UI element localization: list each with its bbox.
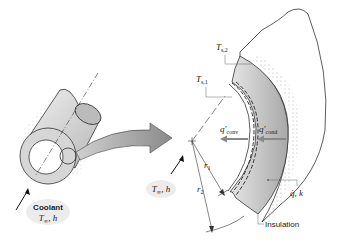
diagram-canvas: Coolant T∞, h q′conv q′cond Ts,2 Ts,1 T∞… [0,0,343,246]
coolant-label: Coolant [33,203,63,212]
insulation-label: Insulation [265,220,299,229]
r1-label: r1 [204,160,211,171]
r2-label: r2 [197,184,204,195]
ts1-leader [206,87,232,97]
r2-dimension-line [192,141,212,230]
ts1-label: Ts,1 [196,74,208,85]
pipe-bore [29,140,63,174]
ts2-label: Ts,2 [216,42,228,53]
q-conv-label: q′conv [220,124,238,135]
inner-fluid-conditions-label: T∞, h [152,184,171,195]
coolant-conditions-label: T∞, h [39,213,58,224]
generation-point [267,179,269,181]
insulation-leader [258,213,264,224]
generation-conductivity-label: q̇, k [290,188,304,198]
r2-arrow-icon [209,226,214,233]
radial-centerline [192,96,225,141]
q-conv-arrow-icon [220,136,227,143]
pipe-illustration [20,73,105,184]
